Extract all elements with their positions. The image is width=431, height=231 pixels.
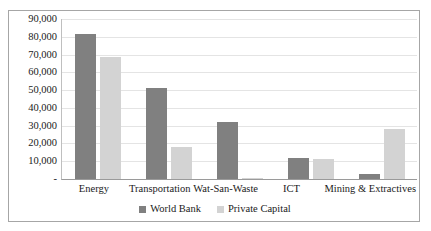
x-axis-category-label: Mining & Extractives	[324, 181, 416, 197]
y-axis-tick-label: 30,000	[28, 120, 57, 132]
y-axis-tick-label: 80,000	[28, 31, 57, 43]
x-axis-category-label: Wat-San-Waste	[193, 181, 259, 197]
y-axis: 90,00080,00070,00060,00050,00040,00030,0…	[9, 11, 61, 223]
bar-world-bank[interactable]	[359, 174, 380, 179]
bar-world-bank[interactable]	[217, 122, 238, 179]
x-axis-labels: EnergyTransportationWat-San-WasteICTMini…	[61, 181, 416, 197]
legend-swatch-icon	[139, 206, 146, 213]
y-axis-tick-label: 60,000	[28, 66, 57, 78]
chart-legend: World BankPrivate Capital	[9, 203, 421, 215]
x-axis-category-label: Transportation	[127, 181, 193, 197]
bar-group	[62, 19, 133, 179]
legend-item[interactable]: Private Capital	[217, 203, 291, 215]
bar-private-capital[interactable]	[384, 129, 405, 179]
bar-private-capital[interactable]	[100, 57, 121, 179]
y-axis-tick-label: 50,000	[28, 84, 57, 96]
y-axis-tick-label: 20,000	[28, 137, 57, 149]
plot-area	[61, 19, 417, 180]
y-axis-tick-label: -	[54, 173, 58, 185]
x-axis-category-label: Energy	[61, 181, 127, 197]
bar-private-capital[interactable]	[171, 147, 192, 179]
chart-plot-wrapper: 90,00080,00070,00060,00050,00040,00030,0…	[9, 11, 421, 223]
y-axis-tick-label: 10,000	[28, 155, 57, 167]
y-axis-tick-label: 70,000	[28, 49, 57, 61]
bar-group	[133, 19, 204, 179]
bar-groups	[62, 19, 417, 179]
legend-label: World Bank	[150, 203, 201, 215]
bar-private-capital[interactable]	[313, 159, 334, 179]
bar-world-bank[interactable]	[75, 34, 96, 179]
x-axis-category-label: ICT	[259, 181, 325, 197]
legend-label: Private Capital	[228, 203, 291, 215]
chart-frame: 90,00080,00070,00060,00050,00040,00030,0…	[8, 10, 420, 222]
bar-private-capital[interactable]	[242, 178, 263, 179]
bar-world-bank[interactable]	[146, 88, 167, 179]
bar-group	[204, 19, 275, 179]
y-axis-tick-label: 40,000	[28, 102, 57, 114]
bar-world-bank[interactable]	[288, 158, 309, 179]
y-axis-tick-label: 90,000	[28, 13, 57, 25]
legend-swatch-icon	[217, 206, 224, 213]
bar-group	[275, 19, 346, 179]
bar-group	[346, 19, 417, 179]
legend-item[interactable]: World Bank	[139, 203, 201, 215]
